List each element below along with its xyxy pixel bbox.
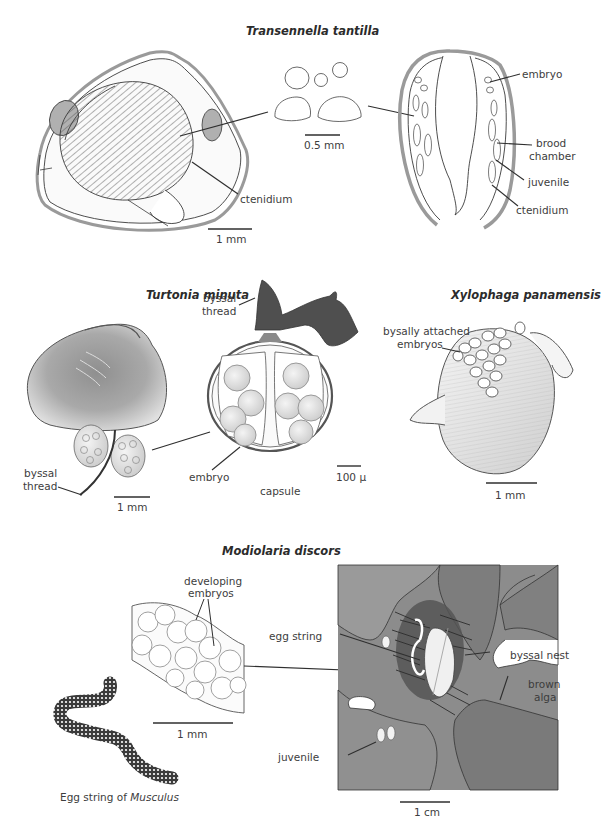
label-byssal-thread-top-1: byssal [203,292,236,304]
label-ctenidium-right: ctenidium [516,204,568,216]
label-alga: alga [534,691,556,703]
modiolaria-title: Modiolaria discors [222,544,341,558]
label-byssal-thread-top-2: thread [202,305,236,317]
label-developing: developing [184,575,242,587]
scale-bar-label-turtonia-shell: 1 mm [117,501,147,513]
musculus-caption-genus: Musculus [130,791,179,803]
label-byssal-nest: byssal nest [510,649,569,661]
label-capsule: capsule [260,485,300,497]
musculus-caption-prefix: Egg string of [60,791,130,803]
transennella-shell-drawing [37,52,268,231]
label-byssal-thread-bottom-2: thread [23,480,57,492]
label-embryo: embryo [522,68,562,80]
label-ctenidium-left: ctenidium [240,193,292,205]
scale-bar-label-string-detail: 1 mm [177,728,207,740]
turtonia-drawing [27,280,361,497]
label-byssal-thread-bottom-1: byssal [24,467,57,479]
label-brown: brown [528,678,560,690]
label-juvenile-modiolaria: juvenile [278,751,319,763]
modiolaria-nest-drawing [338,565,558,802]
transennella-section-drawing [400,51,532,228]
scale-bar-label-nest: 1 cm [414,806,440,818]
musculus-egg-string [60,683,172,778]
transennella-title: Transennella tantilla [246,24,379,38]
label-developing-embryos: embryos [188,587,234,599]
scale-bar-label-xylophaga: 1 mm [495,489,525,501]
musculus-caption: Egg string of Musculus [60,791,179,803]
scale-bar-label-transennella-shell: 1 mm [216,233,246,245]
label-egg-string: egg string [269,630,322,642]
label-brood-2: chamber [529,150,576,162]
xylophaga-title: Xylophaga panamensis [451,288,601,302]
label-brood-1: brood [536,137,566,149]
scale-bar-label-turtonia-capsule: 100 µ [336,471,366,483]
label-bysally-attached-1: bysally attached [383,325,470,337]
label-embryo-turtonia: embryo [189,471,229,483]
transennella-juvenile-shells [275,63,414,136]
label-bysally-attached-2: embryos [397,338,443,350]
scale-bar-label-transennella-juveniles: 0.5 mm [304,139,345,151]
label-juvenile: juvenile [528,176,569,188]
